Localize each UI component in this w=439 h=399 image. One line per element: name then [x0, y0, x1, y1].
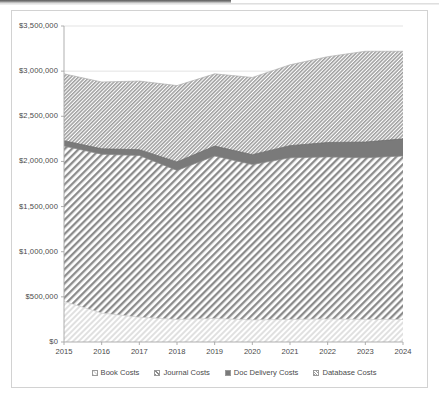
legend-item-label: Journal Costs [163, 369, 209, 377]
stacked-area-chart [0, 0, 439, 399]
chart-legend: Book CostsJournal CostsDoc Delivery Cost… [64, 369, 404, 377]
legend-item[interactable]: Database Costs [313, 369, 376, 377]
legend-swatch-icon [313, 370, 319, 376]
legend-item[interactable]: Journal Costs [154, 369, 209, 377]
x-axis-tick-label: 2022 [312, 348, 344, 356]
x-axis-tick-label: 2019 [199, 348, 231, 356]
y-axis-tick-label: $1,000,000 [0, 248, 58, 256]
x-axis-tick-label: 2018 [161, 348, 193, 356]
y-axis-tick-label: $0 [0, 338, 58, 346]
x-axis-tick-label: 2024 [387, 348, 419, 356]
y-axis-tick-label: $500,000 [0, 293, 58, 301]
x-axis-tick-label: 2021 [274, 348, 306, 356]
legend-item[interactable]: Book Costs [92, 369, 140, 377]
area-journal-costs [64, 146, 403, 342]
y-axis-tick-label: $3,000,000 [0, 67, 58, 75]
x-axis-tick-label: 2015 [48, 348, 80, 356]
legend-item-label: Database Costs [322, 369, 376, 377]
x-axis-tick-label: 2017 [123, 348, 155, 356]
legend-item-label: Doc Delivery Costs [234, 369, 299, 377]
y-axis-tick-label: $1,500,000 [0, 203, 58, 211]
legend-swatch-icon [92, 370, 98, 376]
legend-swatch-icon [154, 370, 160, 376]
legend-item-label: Book Costs [101, 369, 140, 377]
y-axis-tick-label: $2,500,000 [0, 112, 58, 120]
x-axis-tick-label: 2016 [86, 348, 118, 356]
area-series-group [64, 51, 403, 342]
x-axis-tick-label: 2020 [236, 348, 268, 356]
legend-swatch-icon [225, 370, 231, 376]
y-axis-tick-label: $3,500,000 [0, 22, 58, 30]
y-axis-tick-label: $2,000,000 [0, 157, 58, 165]
x-axis-tick-label: 2023 [349, 348, 381, 356]
legend-item[interactable]: Doc Delivery Costs [225, 369, 299, 377]
